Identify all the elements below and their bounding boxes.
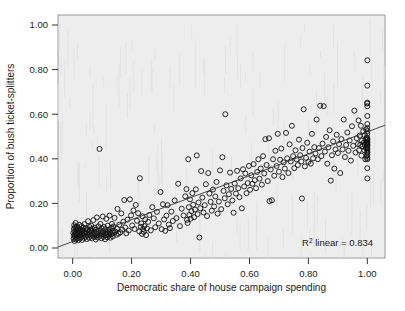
y-axis-title: Proportion of bush ticket-splitters <box>5 64 16 210</box>
x-tick-label: 0.80 <box>299 268 318 279</box>
chart-canvas: 0.000.200.400.600.801.00 0.000.200.400.6… <box>0 0 405 311</box>
r-squared-label: R2 linear = 0.834 <box>302 237 373 249</box>
x-axis-title: Democratic share of house campaign spend… <box>117 282 326 293</box>
x-tick-label: 0.40 <box>181 268 200 279</box>
x-tick-label: 1.00 <box>358 268 377 279</box>
y-tick-label: 0.60 <box>30 109 49 120</box>
svg-text:R2 linear = 0.834: R2 linear = 0.834 <box>302 237 373 249</box>
y-tick-label: 0.80 <box>30 64 49 75</box>
y-tick-label: 0.00 <box>30 242 49 253</box>
r-squared-value-text: linear = 0.834 <box>313 237 373 248</box>
x-tick-label: 0.20 <box>122 268 141 279</box>
y-tick-label: 0.20 <box>30 198 49 209</box>
scatter-chart: 0.000.200.400.600.801.00 0.000.200.400.6… <box>0 0 405 311</box>
y-tick-label: 1.00 <box>30 19 49 30</box>
x-tick-label: 0.60 <box>240 268 259 279</box>
y-tick-label: 0.40 <box>30 153 49 164</box>
x-tick-label: 0.00 <box>63 268 82 279</box>
